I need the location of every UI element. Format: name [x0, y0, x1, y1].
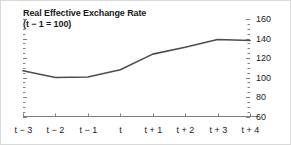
x-axis-tick-label: t − 1	[80, 126, 98, 135]
y-axis-tick-label: 140	[256, 35, 271, 44]
y-axis-tick-label: 120	[256, 54, 271, 63]
x-axis-tick-label: t + 1	[145, 126, 163, 135]
x-axis-tick-label: t	[119, 126, 122, 135]
data-series-line	[23, 39, 250, 77]
x-axis-tick-label: t − 3	[15, 126, 33, 135]
y-axis-tick-label: 160	[256, 15, 271, 24]
chart-figure: Real Effective Exchange Rate (t − 1 = 10…	[0, 0, 291, 145]
x-axis-tick-label: t − 2	[47, 126, 65, 135]
y-axis-tick-label: 100	[256, 74, 271, 83]
y-axis-minor-ticks-left	[23, 20, 26, 118]
y-axis-tick-label: 80	[256, 93, 266, 102]
x-axis-tick-label: t + 2	[177, 126, 195, 135]
y-axis-minor-ticks-right	[248, 20, 251, 118]
chart-plot-svg	[1, 1, 291, 145]
y-axis-tick-label: 60	[256, 113, 266, 122]
x-axis-tick-label: t + 4	[242, 126, 260, 135]
plot-area: 1601401201008060 t − 3t − 2t − 1tt + 1t …	[1, 1, 291, 145]
x-axis-tick-label: t + 3	[210, 126, 228, 135]
